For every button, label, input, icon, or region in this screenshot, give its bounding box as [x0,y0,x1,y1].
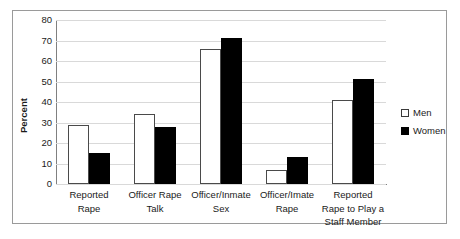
chart-legend: MenWomen [401,107,457,136]
x-axis-category-labels: ReportedRapeOfficer RapeTalkOfficer/Inma… [56,188,386,234]
legend-item-men: Men [401,107,457,118]
bar-women [221,38,242,184]
bar-women [155,127,176,184]
bar-group [320,20,386,184]
bar-women [353,79,374,184]
legend-label: Women [413,125,446,136]
bar-women [89,153,110,184]
legend-item-women: Women [401,125,457,136]
bars-layer [56,20,386,184]
bar-men [266,170,287,184]
hollow-square-icon [401,109,409,117]
bar-group [188,20,254,184]
y-axis-tick-label: 10 [28,158,52,169]
y-axis-tick-label: 70 [28,35,52,46]
bar-women [287,157,308,184]
y-axis-tick-label: 40 [28,96,52,107]
plot-area [56,20,386,184]
chart-frame: Percent 80706050403020100 ReportedRapeOf… [12,10,447,224]
y-axis-tick-label: 30 [28,117,52,128]
filled-square-icon [401,127,409,135]
y-axis-tick-label: 60 [28,55,52,66]
y-axis-tick-labels: 80706050403020100 [27,20,52,184]
y-axis-tick-label: 50 [28,76,52,87]
bar-group [122,20,188,184]
bar-men [332,100,353,184]
y-axis-tick-label: 20 [28,137,52,148]
bar-group [254,20,320,184]
y-axis-tick-label: 0 [28,178,52,189]
bar-men [68,125,89,184]
x-axis-line [56,184,387,185]
legend-label: Men [413,107,431,118]
y-axis-tick-label: 80 [28,14,52,25]
x-axis-category-label: ReportedRape to Play aStaff Member [314,188,392,229]
bar-men [200,49,221,184]
bar-group [56,20,122,184]
bar-men [134,114,155,184]
